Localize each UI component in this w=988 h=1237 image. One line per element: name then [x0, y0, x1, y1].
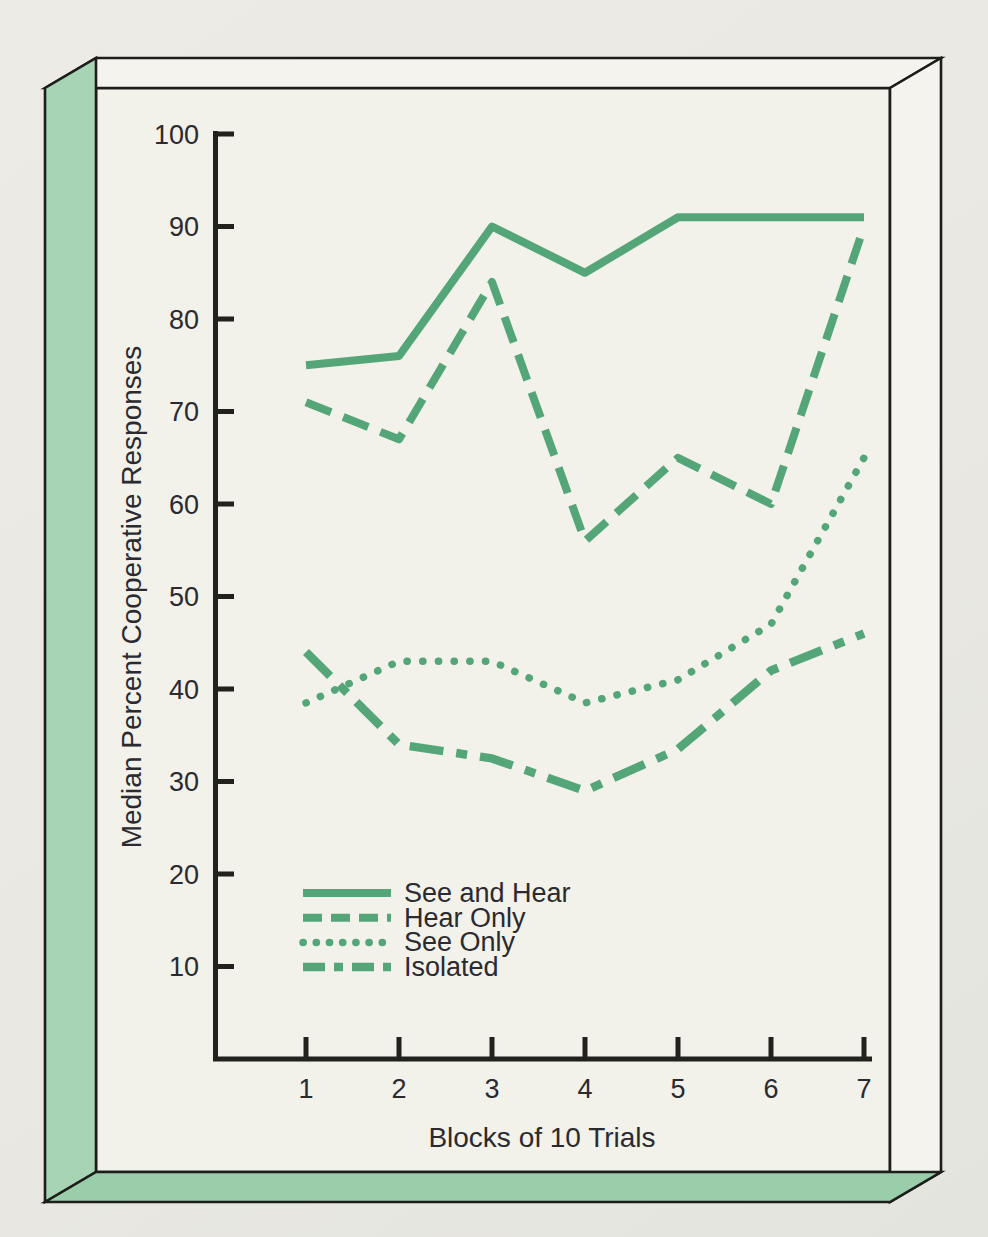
x-tick-label: 7 — [856, 1074, 871, 1104]
y-tick-label: 90 — [169, 212, 199, 242]
scanned-page: 1009080706050403020101234567Median Perce… — [0, 0, 988, 1237]
y-tick-label: 60 — [169, 490, 199, 520]
y-tick-label: 70 — [169, 397, 199, 427]
x-tick-label: 1 — [298, 1074, 313, 1104]
y-axis-title: Median Percent Cooperative Responses — [116, 346, 147, 849]
x-tick-label: 4 — [577, 1074, 592, 1104]
frame-bottom-face — [45, 1172, 941, 1202]
y-tick-label: 30 — [169, 767, 199, 797]
y-tick-label: 80 — [169, 305, 199, 335]
frame-left-face — [45, 58, 96, 1202]
cooperation-line-chart-figure: 1009080706050403020101234567Median Perce… — [0, 0, 988, 1237]
frame-top-face — [45, 58, 941, 88]
y-tick-label: 20 — [169, 860, 199, 890]
y-tick-label: 40 — [169, 675, 199, 705]
x-tick-label: 6 — [763, 1074, 778, 1104]
x-tick-label: 3 — [484, 1074, 499, 1104]
x-axis-title: Blocks of 10 Trials — [428, 1122, 655, 1153]
y-tick-label: 10 — [169, 952, 199, 982]
legend-label-isolated: Isolated — [404, 952, 499, 982]
y-tick-label: 100 — [154, 120, 199, 150]
x-tick-label: 5 — [670, 1074, 685, 1104]
frame-right-face — [890, 58, 941, 1202]
y-tick-label: 50 — [169, 582, 199, 612]
x-tick-label: 2 — [391, 1074, 406, 1104]
